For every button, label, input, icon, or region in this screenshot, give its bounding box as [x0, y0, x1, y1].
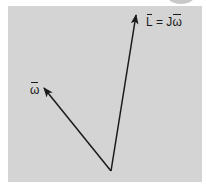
omega-symbol: ω: [30, 83, 39, 97]
angular-momentum-label: L = Jω: [146, 15, 182, 29]
angular-velocity-label: ω: [30, 83, 39, 97]
omega-symbol: ω: [172, 15, 181, 29]
L-symbol: L: [146, 15, 153, 29]
equals-J: = J: [153, 15, 173, 29]
angular-velocity-arrow: [44, 88, 111, 171]
angular-momentum-arrow: [111, 15, 136, 171]
